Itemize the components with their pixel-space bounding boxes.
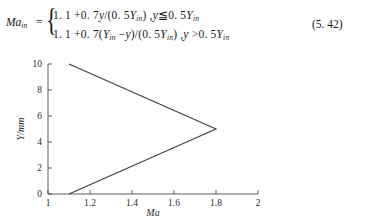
equation-lhs-symbol: Ma (6, 16, 21, 28)
x-axis-title: Ma (145, 207, 159, 218)
y-axis-tick-labels: 0246810 (33, 59, 43, 199)
chart-block: 0246810 11.21.41.61.82 Ma Y/mm (0, 56, 391, 222)
equation-number: (5. 42) (312, 18, 343, 30)
equation-equals-sign: = (36, 16, 43, 28)
data-series-Ma_in profile (69, 64, 216, 194)
x-tick-label-1.4: 1.4 (126, 198, 138, 208)
y-axis-ticks (48, 64, 52, 194)
x-tick-label-1.8: 1.8 (210, 198, 222, 208)
equation-lhs-subscript: in (21, 21, 27, 30)
textbook-page: Main = { 1. 1 +0. 7y/(0. 5Yin) ,y≦0. 5Yi… (0, 0, 391, 222)
y-tick-label-8: 8 (37, 85, 42, 95)
y-tick-label-0: 0 (37, 189, 42, 199)
x-axis-ticks (48, 190, 258, 194)
x-tick-label-1: 1 (46, 198, 51, 208)
y-tick-label-4: 4 (37, 137, 42, 147)
x-tick-label-1.6: 1.6 (168, 198, 180, 208)
y-tick-label-2: 2 (37, 163, 42, 173)
equation-block: Main = { 1. 1 +0. 7y/(0. 5Yin) ,y≦0. 5Yi… (0, 0, 391, 56)
y-axis-title: Y/mm (15, 118, 26, 141)
equation-case-second: 1. 1 +0. 7(Yin −y)/(0. 5Yin) ,y >0. 5Yin (53, 28, 229, 42)
y-tick-label-6: 6 (37, 111, 42, 121)
x-tick-label-1.2: 1.2 (84, 198, 96, 208)
mach-number-profile-chart: 0246810 11.21.41.61.82 Ma Y/mm (0, 56, 391, 222)
equation-left-hand-side: Main (6, 16, 27, 30)
equation-case-first: 1. 1 +0. 7y/(0. 5Yin) ,y≦0. 5Yin (53, 8, 199, 23)
y-tick-label-10: 10 (33, 59, 43, 69)
x-tick-label-2: 2 (256, 198, 261, 208)
